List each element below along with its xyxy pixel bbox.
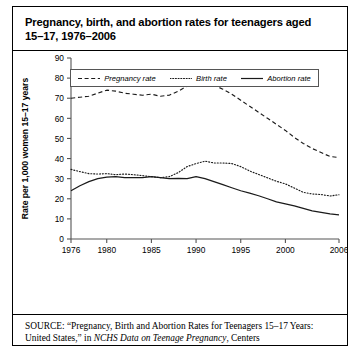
chart-legend: Pregnancy rate Birth rate Abortion rate bbox=[70, 69, 319, 87]
y-axis-tick-label: 30 bbox=[55, 174, 65, 184]
plot-block: Pregnancy rate Birth rate Abortion rate … bbox=[13, 51, 347, 314]
y-axis-tick-label: 50 bbox=[55, 134, 65, 144]
x-axis-tick-label: 1976 bbox=[62, 245, 81, 255]
y-axis-tick-label: 20 bbox=[55, 194, 65, 204]
source-note: SOURCE: “Pregnancy, Birth and Abortion R… bbox=[25, 321, 339, 344]
source-tail: , Centers bbox=[226, 333, 259, 343]
y-axis-tick-label: 40 bbox=[55, 154, 65, 164]
title-block: Pregnancy, birth, and abortion rates for… bbox=[13, 7, 347, 50]
legend-item-birth-rate: Birth rate bbox=[170, 74, 227, 83]
series-line-pregnancy-rate bbox=[71, 82, 339, 157]
x-axis-tick-label: 2006 bbox=[330, 245, 347, 255]
y-axis-tick-label: 70 bbox=[55, 93, 65, 103]
legend-label-birth-rate: Birth rate bbox=[196, 74, 227, 83]
y-axis-tick-label: 10 bbox=[55, 214, 65, 224]
source-block: SOURCE: “Pregnancy, Birth and Abortion R… bbox=[13, 315, 347, 344]
dashed-line-icon bbox=[78, 75, 100, 82]
legend-label-abortion-rate: Abortion rate bbox=[267, 74, 310, 83]
x-axis-tick-label: 2000 bbox=[276, 245, 295, 255]
legend-item-abortion-rate: Abortion rate bbox=[241, 74, 310, 83]
y-axis-tick-label: 90 bbox=[55, 53, 65, 63]
legend-label-pregnancy-rate: Pregnancy rate bbox=[104, 74, 156, 83]
x-axis-tick-label: 1985 bbox=[142, 245, 161, 255]
line-chart: 0102030405060708090197619801985199019952… bbox=[13, 51, 347, 314]
source-label: SOURCE: bbox=[25, 321, 65, 331]
y-axis-tick-label: 80 bbox=[55, 73, 65, 83]
series-line-abortion-rate bbox=[71, 177, 339, 215]
page-title: Pregnancy, birth, and abortion rates for… bbox=[25, 15, 337, 43]
solid-line-icon bbox=[241, 75, 263, 82]
dotted-line-icon bbox=[170, 75, 192, 82]
y-axis-tick-label: 0 bbox=[59, 234, 64, 244]
source-publication: NCHS Data on Teenage Pregnancy bbox=[94, 333, 227, 343]
x-axis-tick-label: 1980 bbox=[97, 245, 116, 255]
y-axis-tick-label: 60 bbox=[55, 114, 65, 124]
y-axis-label: Rate per 1,000 women 15–17 years bbox=[20, 78, 30, 220]
x-axis-tick-label: 1995 bbox=[231, 245, 250, 255]
legend-item-pregnancy-rate: Pregnancy rate bbox=[78, 74, 156, 83]
x-axis-tick-label: 1990 bbox=[187, 245, 206, 255]
figure-container: Pregnancy, birth, and abortion rates for… bbox=[12, 6, 348, 346]
